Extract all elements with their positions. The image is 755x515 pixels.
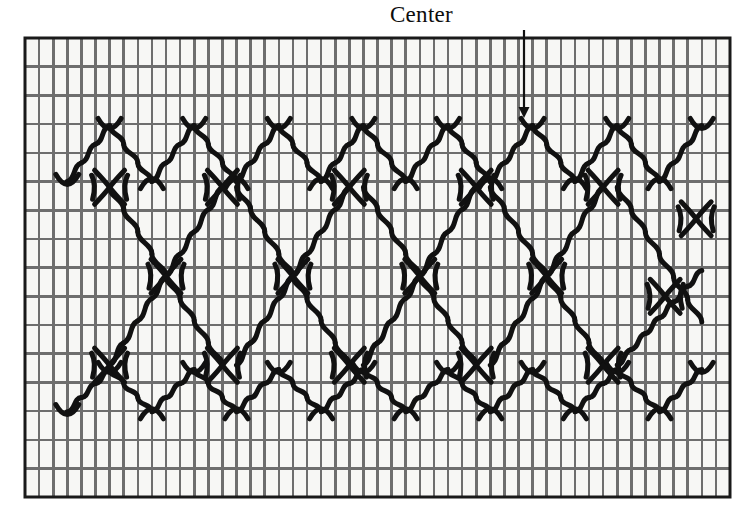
- stitch-node-curl: [331, 353, 334, 377]
- stitch-node-curl: [491, 353, 494, 377]
- stitch-node-curl: [275, 264, 278, 288]
- stitch-node-curl: [181, 264, 184, 288]
- stitch-node-curl: [680, 284, 683, 308]
- stitch-node-curl: [331, 175, 334, 199]
- stitch-node-curl: [365, 353, 368, 377]
- stitch-node-curl: [92, 353, 95, 377]
- stitch-node-curl: [585, 175, 588, 199]
- stitch-node-curl: [308, 264, 311, 288]
- stitch-node-curl: [647, 284, 650, 308]
- stitch-node-curl: [562, 264, 565, 288]
- stitch-node-curl: [585, 353, 588, 377]
- stitch-node-curl: [711, 207, 714, 231]
- stitch-node-curl: [529, 264, 532, 288]
- stitch-node-curl: [238, 353, 241, 377]
- stitch-node-curl: [238, 175, 241, 199]
- stitch-node-curl: [402, 264, 405, 288]
- stitch-node-curl: [92, 175, 95, 199]
- stitch-node-curl: [125, 175, 128, 199]
- stitch-chart-figure: Center: [0, 0, 755, 515]
- stitch-node-curl: [618, 175, 621, 199]
- stitch-node-curl: [365, 175, 368, 199]
- stitch-node-curl: [148, 264, 151, 288]
- chart-canvas: [0, 0, 755, 515]
- stitch-node-curl: [204, 353, 207, 377]
- stitch-node-curl: [435, 264, 438, 288]
- stitch-node-curl: [458, 175, 461, 199]
- stitch-node-curl: [618, 353, 621, 377]
- stitch-node-curl: [458, 353, 461, 377]
- stitch-node-curl: [125, 353, 128, 377]
- stitch-node-curl: [491, 175, 494, 199]
- stitch-node-curl: [678, 207, 681, 231]
- stitch-node-curl: [204, 175, 207, 199]
